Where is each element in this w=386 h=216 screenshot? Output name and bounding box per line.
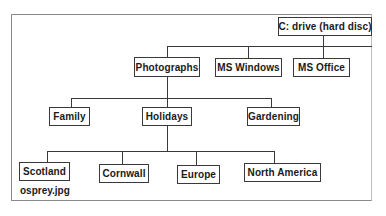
node-gardening: Gardening bbox=[247, 107, 300, 126]
connector-level1-bus bbox=[167, 46, 372, 47]
connector-to-europe bbox=[196, 151, 197, 165]
node-ms-office: MS Office bbox=[293, 58, 350, 77]
node-north-america: North America bbox=[244, 163, 321, 182]
node-europe: Europe bbox=[177, 165, 220, 184]
connector-to-cornwall bbox=[122, 151, 123, 164]
node-scotland: Scotland bbox=[19, 162, 70, 181]
connector-to-gardening bbox=[271, 98, 272, 107]
node-c-drive: C: drive (hard disc) bbox=[278, 17, 372, 36]
connector-to-family bbox=[71, 98, 72, 107]
node-photographs: Photographs bbox=[134, 57, 200, 77]
node-ms-windows: MS Windows bbox=[215, 58, 282, 77]
connector-level2-bus bbox=[71, 98, 272, 99]
connector-holidays-down bbox=[167, 126, 168, 151]
connector-photographs-down bbox=[167, 76, 168, 107]
node-holidays: Holidays bbox=[142, 107, 192, 126]
connector-to-scotland bbox=[47, 151, 48, 162]
node-cornwall: Cornwall bbox=[99, 164, 149, 183]
connector-to-ms-windows bbox=[248, 46, 249, 58]
connector-level3-bus bbox=[47, 151, 275, 152]
node-family: Family bbox=[49, 107, 90, 126]
file-osprey-jpg: osprey.jpg bbox=[20, 185, 70, 196]
connector-to-north-america bbox=[274, 151, 275, 163]
